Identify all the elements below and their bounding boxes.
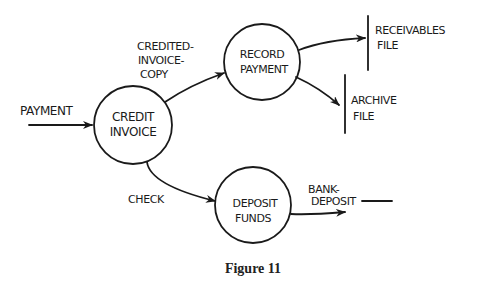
process-label-line1: CREDIT (112, 110, 155, 124)
store-label-line1: ARCHIVE (351, 94, 397, 107)
process-circle (224, 24, 300, 100)
figure-caption: Figure 11 (225, 261, 281, 276)
flow-label-line3: COPY (140, 68, 169, 81)
flow-bank-deposit: BANK- DEPOSIT (291, 183, 392, 214)
arrow-to-receivables (299, 38, 365, 50)
store-archive-file: ARCHIVE FILE (345, 75, 397, 133)
flow-check: CHECK (128, 162, 215, 206)
flow-credited-invoice-copy: CREDITED- INVOICE- COPY (137, 40, 224, 102)
data-flow-diagram: PAYMENT CREDIT INVOICE CREDITED- INVOICE… (0, 0, 487, 284)
store-label-line1: RECEIVABLES (375, 24, 445, 37)
process-deposit-funds: DEPOSIT FUNDS (215, 167, 291, 243)
process-label-line2: PAYMENT (240, 63, 289, 76)
arrow-bank-deposit (291, 212, 345, 214)
flow-payment: PAYMENT (20, 104, 92, 125)
flow-label-line2: INVOICE- (138, 54, 185, 67)
process-record-payment: RECORD PAYMENT (224, 24, 300, 100)
process-credit-invoice: CREDIT INVOICE (94, 86, 172, 164)
store-label-line2: FILE (353, 110, 374, 123)
flow-label-line1: CREDITED- (137, 40, 194, 53)
process-label-line2: INVOICE (110, 125, 157, 139)
flow-label-line2: DEPOSIT (311, 195, 357, 208)
process-label-line2: FUNDS (235, 212, 271, 225)
flow-label-payment: PAYMENT (20, 104, 74, 118)
store-label-line2: FILE (377, 39, 398, 52)
arrow-credited-invoice-copy (165, 73, 224, 102)
flow-label-check: CHECK (128, 193, 165, 206)
process-label-line1: DEPOSIT (233, 197, 279, 210)
arrow-to-archive (296, 77, 339, 105)
process-label-line1: RECORD (240, 48, 285, 61)
store-receivables-file: RECEIVABLES FILE (368, 16, 445, 70)
